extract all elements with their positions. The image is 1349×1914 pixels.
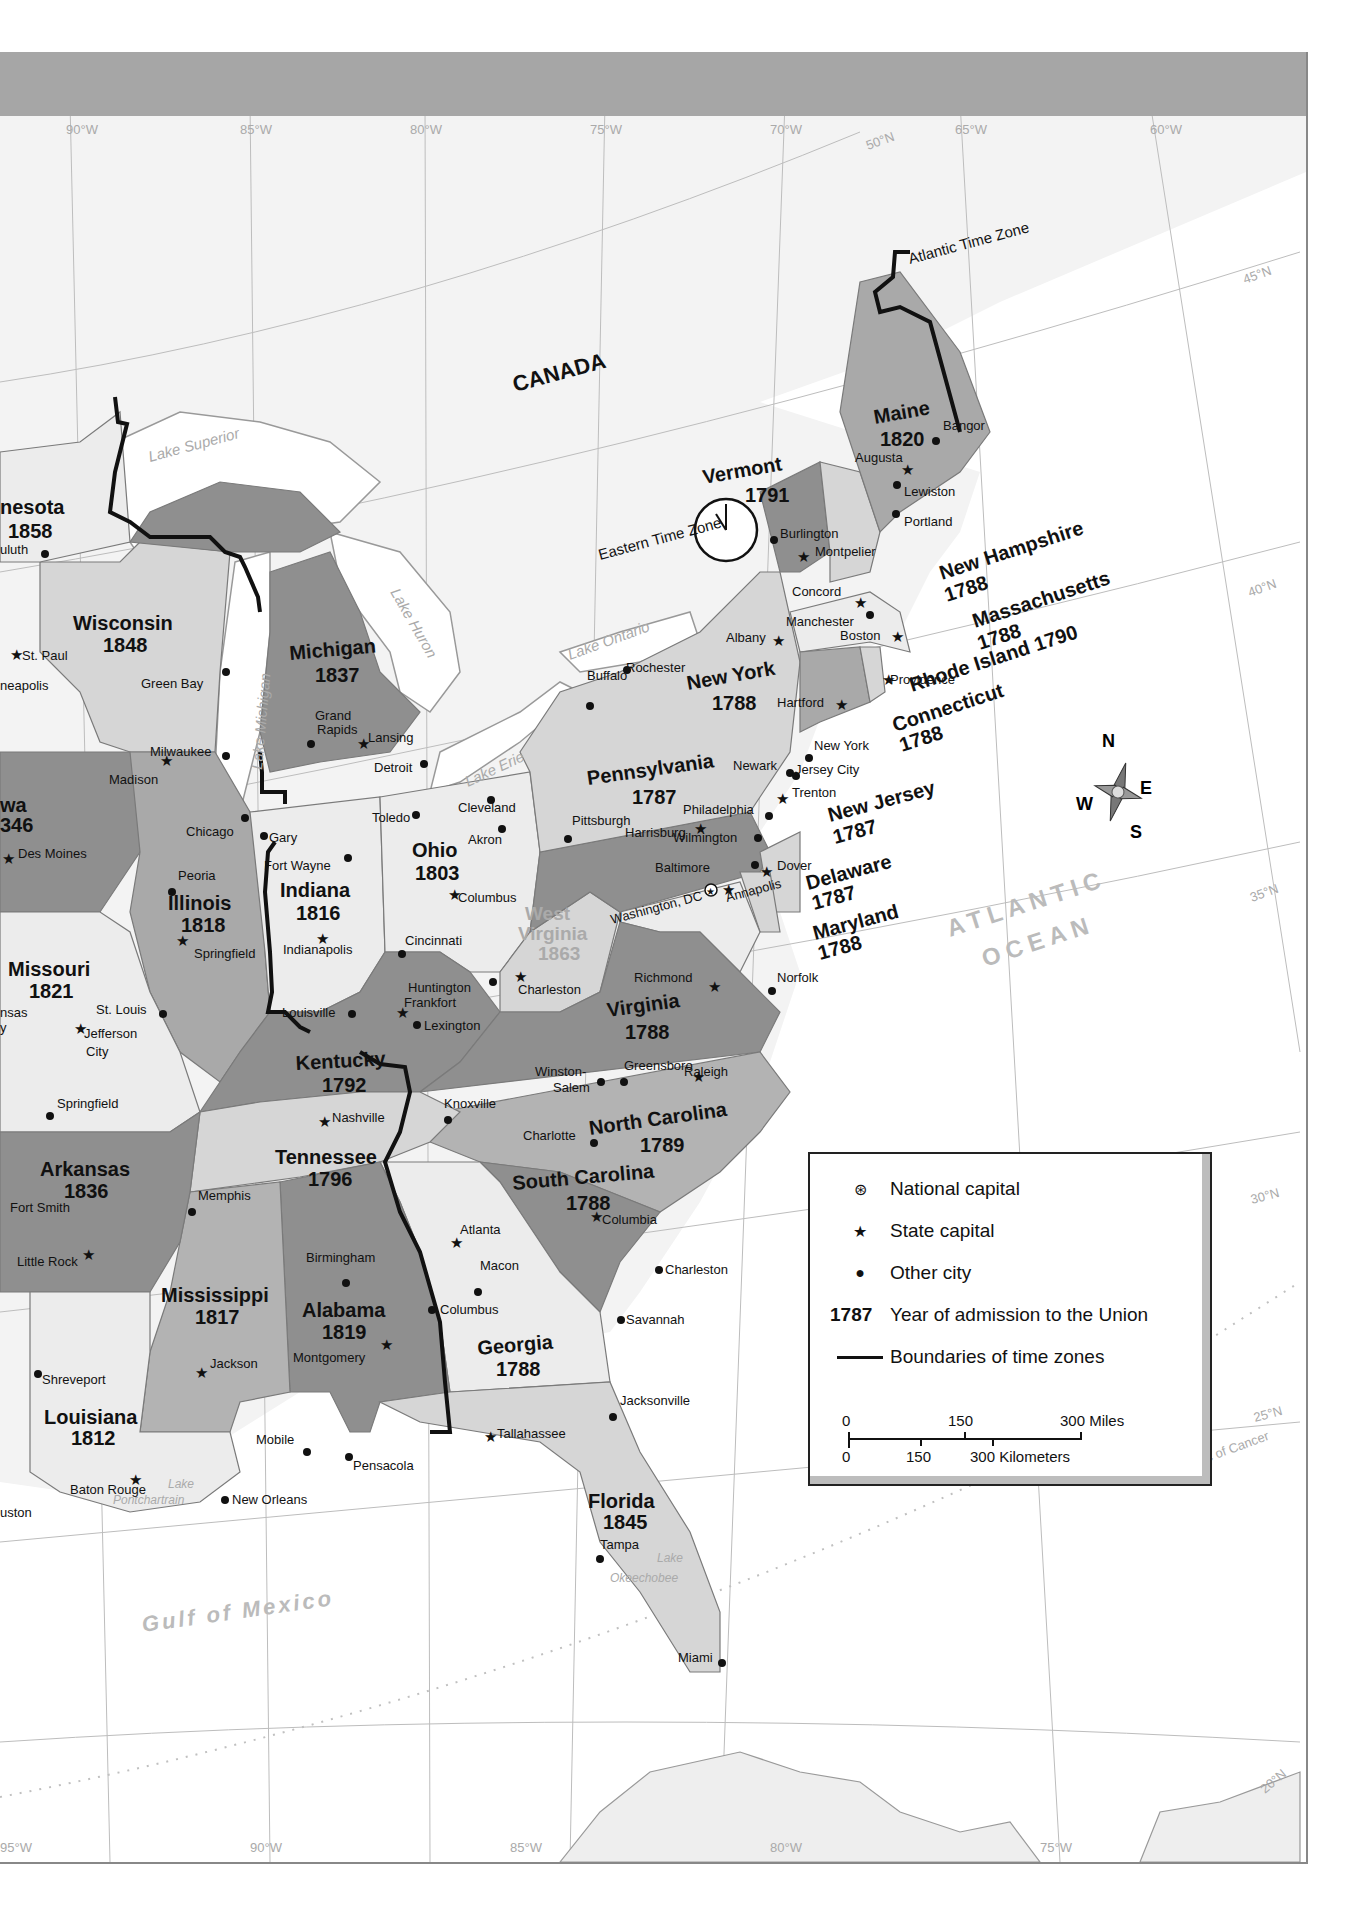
svg-text:Chicago: Chicago xyxy=(186,824,234,839)
legend-label: State capital xyxy=(890,1220,995,1242)
svg-text:1816: 1816 xyxy=(296,902,341,924)
svg-text:New Orleans: New Orleans xyxy=(232,1492,308,1507)
svg-text:Fort Wayne: Fort Wayne xyxy=(264,858,331,873)
svg-text:Akron: Akron xyxy=(468,832,502,847)
map-frame: N E W S 90°W 85°W 80°W 75°W 70°W 65°W 60… xyxy=(0,52,1308,1864)
svg-text:Frankfort: Frankfort xyxy=(404,995,456,1010)
svg-text:Nashville: Nashville xyxy=(332,1110,385,1125)
title-band xyxy=(0,52,1306,116)
legend-row-national-capital: ⊛ National capital xyxy=(830,1178,1020,1200)
svg-text:1836: 1836 xyxy=(64,1180,109,1202)
svg-text:Columbia: Columbia xyxy=(602,1212,658,1227)
svg-text:★: ★ xyxy=(514,968,527,985)
dot-icon: ● xyxy=(830,1264,890,1282)
svg-text:nsas: nsas xyxy=(0,1005,28,1020)
svg-text:1787: 1787 xyxy=(632,786,677,808)
svg-text:★: ★ xyxy=(10,646,23,663)
svg-text:★: ★ xyxy=(706,886,715,897)
svg-text:★: ★ xyxy=(772,632,785,649)
svg-text:Jefferson: Jefferson xyxy=(84,1026,137,1041)
svg-text:★: ★ xyxy=(448,886,461,903)
svg-text:★: ★ xyxy=(776,790,789,807)
svg-text:Illinois: Illinois xyxy=(168,892,231,914)
svg-text:Columbus: Columbus xyxy=(440,1302,499,1317)
svg-text:Mississippi: Mississippi xyxy=(161,1284,269,1306)
svg-text:★: ★ xyxy=(708,978,721,995)
svg-text:★: ★ xyxy=(694,820,707,837)
svg-text:Baltimore: Baltimore xyxy=(655,860,710,875)
svg-text:wa: wa xyxy=(0,794,28,816)
national-capital-icon: ⊛ xyxy=(830,1180,890,1199)
svg-text:Rapids: Rapids xyxy=(317,722,358,737)
svg-text:Knoxville: Knoxville xyxy=(444,1096,496,1111)
svg-text:Tampa: Tampa xyxy=(600,1537,640,1552)
svg-text:1848: 1848 xyxy=(103,634,148,656)
svg-text:Little Rock: Little Rock xyxy=(17,1254,78,1269)
svg-text:Lake: Lake xyxy=(657,1551,683,1565)
svg-text:Lansing: Lansing xyxy=(368,730,414,745)
svg-text:uston: uston xyxy=(0,1505,32,1520)
svg-text:Indiana: Indiana xyxy=(280,879,351,901)
svg-text:Springfield: Springfield xyxy=(57,1096,118,1111)
map-canvas: N E W S 90°W 85°W 80°W 75°W 70°W 65°W 60… xyxy=(0,52,1306,1862)
svg-text:Lake: Lake xyxy=(168,1477,194,1491)
svg-text:90°W: 90°W xyxy=(250,1840,283,1855)
svg-text:Montgomery: Montgomery xyxy=(293,1350,366,1365)
svg-text:Charlotte: Charlotte xyxy=(523,1128,576,1143)
svg-text:1788: 1788 xyxy=(496,1358,541,1380)
svg-text:80°W: 80°W xyxy=(770,1840,803,1855)
svg-text:y: y xyxy=(0,1020,7,1035)
svg-text:Alabama: Alabama xyxy=(302,1299,386,1321)
svg-text:Green Bay: Green Bay xyxy=(141,676,204,691)
svg-text:★: ★ xyxy=(760,863,773,880)
svg-text:60°W: 60°W xyxy=(1150,122,1183,137)
svg-text:★: ★ xyxy=(195,1364,208,1381)
svg-text:Augusta: Augusta xyxy=(855,450,903,465)
svg-text:★: ★ xyxy=(882,671,895,688)
svg-text:Miami: Miami xyxy=(678,1650,713,1665)
svg-text:★: ★ xyxy=(176,932,189,949)
svg-text:1788: 1788 xyxy=(566,1192,611,1214)
svg-text:1817: 1817 xyxy=(195,1306,240,1328)
svg-text:Hartford: Hartford xyxy=(777,695,824,710)
svg-text:Ohio: Ohio xyxy=(412,839,458,861)
svg-text:★: ★ xyxy=(74,1020,87,1037)
compass-n: N xyxy=(1102,731,1115,751)
svg-text:Rochester: Rochester xyxy=(626,660,686,675)
svg-text:★: ★ xyxy=(835,696,848,713)
legend-label: Year of admission to the Union xyxy=(890,1304,1148,1326)
svg-text:Grand: Grand xyxy=(315,708,351,723)
svg-text:Newark: Newark xyxy=(733,758,778,773)
svg-text:Lexington: Lexington xyxy=(424,1018,480,1033)
svg-text:★: ★ xyxy=(316,930,329,947)
svg-text:Lewiston: Lewiston xyxy=(904,484,955,499)
svg-text:70°W: 70°W xyxy=(770,122,803,137)
svg-text:Burlington: Burlington xyxy=(780,526,839,541)
svg-text:Peoria: Peoria xyxy=(178,868,216,883)
svg-text:★: ★ xyxy=(129,1471,142,1488)
svg-text:1858: 1858 xyxy=(8,520,53,542)
svg-text:Arkansas: Arkansas xyxy=(40,1158,130,1180)
svg-text:1837: 1837 xyxy=(315,664,360,686)
svg-text:1796: 1796 xyxy=(308,1168,353,1190)
svg-text:Shreveport: Shreveport xyxy=(42,1372,106,1387)
svg-text:Portland: Portland xyxy=(904,514,952,529)
svg-text:95°W: 95°W xyxy=(0,1840,33,1855)
svg-text:Missouri: Missouri xyxy=(8,958,90,980)
svg-text:Albany: Albany xyxy=(726,630,766,645)
svg-text:★: ★ xyxy=(484,1428,497,1445)
svg-text:Memphis: Memphis xyxy=(198,1188,251,1203)
svg-text:1791: 1791 xyxy=(745,484,790,506)
svg-text:80°W: 80°W xyxy=(410,122,443,137)
svg-text:75°W: 75°W xyxy=(1040,1840,1073,1855)
svg-text:Huntington: Huntington xyxy=(408,980,471,995)
svg-text:★: ★ xyxy=(450,1234,463,1251)
svg-text:Savannah: Savannah xyxy=(626,1312,685,1327)
svg-text:Atlanta: Atlanta xyxy=(460,1222,501,1237)
svg-text:Detroit: Detroit xyxy=(374,760,413,775)
svg-text:★: ★ xyxy=(357,735,370,752)
svg-text:Pittsburgh: Pittsburgh xyxy=(572,813,631,828)
svg-text:Trenton: Trenton xyxy=(792,785,836,800)
national-capital-marker: ★ xyxy=(705,884,717,897)
svg-text:★: ★ xyxy=(590,1208,603,1225)
